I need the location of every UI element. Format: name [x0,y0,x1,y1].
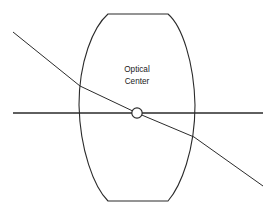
optical-diagram: Optical Center [0,0,277,212]
optical-center-marker [132,108,142,118]
optics-canvas: Optical Center [0,0,277,212]
optical-center-label-line1: Optical [124,65,150,74]
optical-center-label-line2: Center [125,77,150,86]
